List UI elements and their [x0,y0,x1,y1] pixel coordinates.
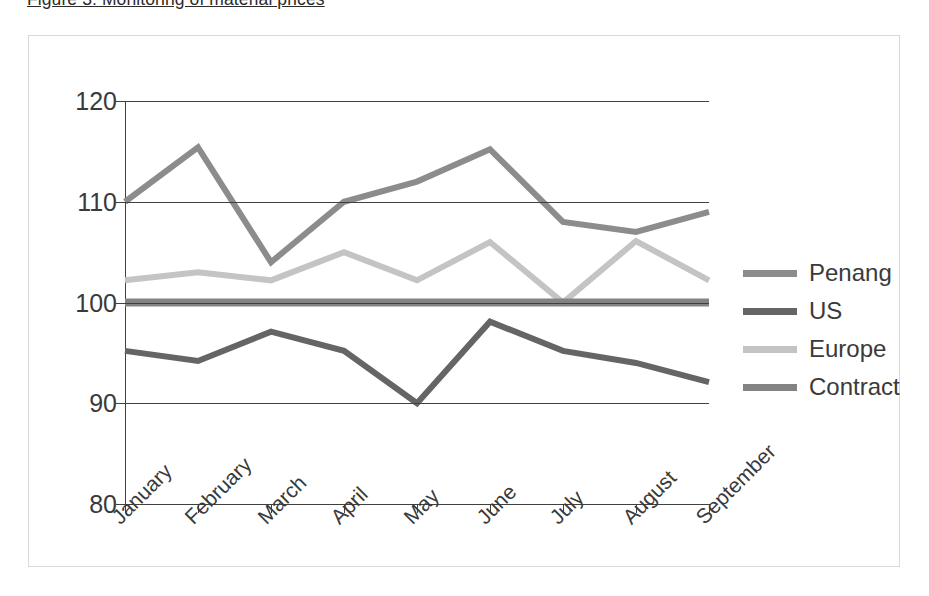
y-axis-tick-label: 120 [75,87,117,116]
legend-item-contract[interactable]: Contract [743,368,923,406]
gridline-90 [125,403,709,404]
gridline-110 [125,202,709,203]
legend-swatch-us-icon [743,308,797,315]
figure-caption: Figure 3: Monitoring of material prices [27,0,325,10]
legend-label: Penang [809,261,892,285]
legend-swatch-europe-icon [743,346,797,353]
legend-swatch-contract-icon [743,384,797,391]
y-axis-labels: 1201101009080 [53,101,117,504]
y-axis-tick-label: 110 [77,187,117,216]
chart-frame: 1201101009080 JanuaryFebruaryMarchAprilM… [28,35,900,567]
legend-label: Europe [809,337,886,361]
legend-item-us[interactable]: US [743,292,923,330]
y-tick-110 [116,202,125,203]
legend-label: Contract [809,375,900,399]
y-axis-tick-label: 100 [75,288,117,317]
legend-swatch-penang-icon [743,270,797,277]
legend-item-penang[interactable]: Penang [743,254,923,292]
series-line-penang [125,147,709,262]
y-axis-tick-label: 90 [89,389,117,418]
y-tick-120 [116,101,125,102]
y-tick-100 [116,303,125,304]
plot-area [125,101,709,504]
series-line-europe [125,241,709,302]
legend-label: US [809,299,842,323]
gridline-100 [125,303,709,304]
gridline-120 [125,101,709,102]
chart-legend: PenangUSEuropeContract [743,254,923,406]
y-tick-90 [116,403,125,404]
legend-item-europe[interactable]: Europe [743,330,923,368]
series-line-us [125,322,709,404]
x-axis-labels: JanuaryFebruaryMarchAprilMayJuneJulyAugu… [125,504,709,596]
